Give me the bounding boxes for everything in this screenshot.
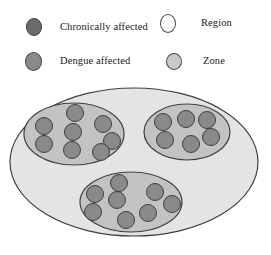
chronically-affected-dot: [199, 112, 216, 129]
legend: Chronically affected Region Dengue affec…: [0, 0, 271, 86]
legend-label-region: Region: [201, 18, 232, 29]
legend-item-dengue-affected: Dengue affected: [25, 46, 130, 76]
chronically-affected-dot: [85, 204, 102, 221]
diagram-canvas: [0, 84, 271, 255]
chronically-affected-dot: [67, 105, 84, 122]
chronically-affected-dot: [64, 142, 81, 159]
chronically-affected-dot: [155, 114, 172, 131]
chronically-affected-dot: [140, 205, 157, 222]
chronically-affected-dot: [95, 116, 112, 133]
outline-circle-white-icon: [160, 14, 176, 33]
filled-circle-light-gray-icon: [166, 53, 182, 70]
legend-label-dengue-affected: Dengue affected: [60, 56, 130, 67]
chronically-affected-dot: [183, 136, 200, 153]
legend-item-zone: Zone: [166, 46, 225, 76]
chronically-affected-dot: [178, 111, 195, 128]
legend-label-chronically-affected: Chronically affected: [60, 22, 148, 33]
chronically-affected-dot: [157, 132, 174, 149]
figure-root: Chronically affected Region Dengue affec…: [0, 0, 271, 255]
chronically-affected-dot: [65, 124, 82, 141]
chronically-affected-dot: [111, 175, 128, 192]
region-zone-diagram: [0, 84, 271, 255]
chronically-affected-dot: [164, 196, 181, 213]
chronically-affected-dot: [118, 212, 135, 229]
chronically-affected-dot: [36, 136, 53, 153]
chronically-affected-dot: [203, 129, 220, 146]
legend-item-chronically-affected: Chronically affected: [26, 12, 148, 42]
legend-item-region: Region: [160, 8, 232, 38]
chronically-affected-dot: [93, 144, 110, 161]
chronically-affected-dot: [36, 118, 53, 135]
legend-label-zone: Zone: [203, 56, 225, 67]
chronically-affected-dot: [87, 186, 104, 203]
filled-circle-medium-gray-icon: [25, 52, 42, 71]
chronically-affected-dot: [109, 192, 126, 209]
filled-circle-dark-gray-icon: [26, 18, 42, 36]
chronically-affected-dot: [147, 184, 164, 201]
